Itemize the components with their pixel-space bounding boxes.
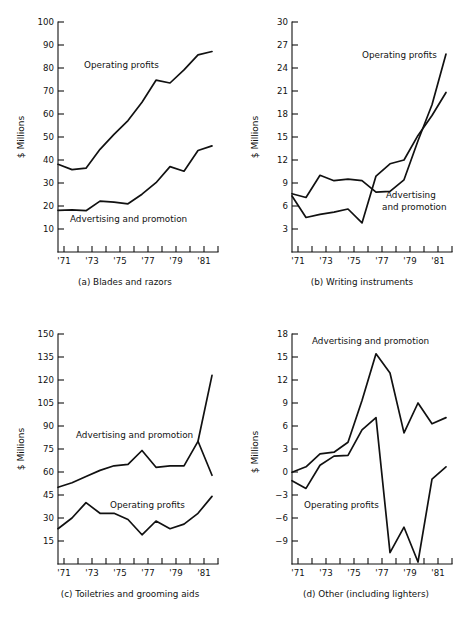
y-tick-label: 21 <box>277 86 288 96</box>
y-tick-label: 30 <box>277 17 288 27</box>
y-tick-label: 3 <box>283 444 288 454</box>
x-tick-label: '73 <box>85 568 98 578</box>
y-tick-label: 75 <box>43 444 54 454</box>
y-tick-label: 6 <box>283 201 288 211</box>
chart-panel-c: 150 135 120 105 90 75 60 45 30 15 $ Mill… <box>0 312 234 624</box>
y-tick-label: 3 <box>283 224 288 234</box>
y-axis-d: 18 15 12 9 6 3 0 −3 −6 −9 $ Millions <box>250 329 298 564</box>
series-label-advertising-and-promotion: Advertising and promotion <box>70 214 187 224</box>
series-line-operating-profits <box>292 54 446 197</box>
x-tick-label: '77 <box>375 256 388 266</box>
y-axis-title: $ Millions <box>16 116 26 159</box>
y-tick-label: 27 <box>277 40 288 50</box>
series-line-advertising-and-promotion <box>58 441 212 487</box>
y-tick-label: 150 <box>38 329 54 339</box>
chart-svg-d: 18 15 12 9 6 3 0 −3 −6 −9 $ Millions <box>234 312 468 624</box>
y-axis-c: 150 135 120 105 90 75 60 45 30 15 $ Mill… <box>16 329 64 564</box>
y-tick-label: 45 <box>43 490 54 500</box>
y-tick-label: 50 <box>43 132 54 142</box>
series-label-operating-profits: Operating profits <box>84 60 159 70</box>
y-tick-label: 135 <box>38 352 54 362</box>
series-line-operating-profits <box>292 418 446 562</box>
y-tick-label: 10 <box>43 224 54 234</box>
y-tick-label: 30 <box>43 513 54 523</box>
x-tick-label: '73 <box>319 568 332 578</box>
y-ticks-d <box>292 334 298 541</box>
x-tick-label: '75 <box>113 568 126 578</box>
series-label-operating-profits: Operating profits <box>362 50 437 60</box>
y-tick-label: 6 <box>283 421 288 431</box>
panel-caption-b: (b) Writing instruments <box>311 277 414 287</box>
y-tick-label: 60 <box>43 109 54 119</box>
x-tick-label: '77 <box>141 568 154 578</box>
x-tick-label: '75 <box>347 256 360 266</box>
y-axis-title: $ Millions <box>250 116 260 159</box>
x-axis-a: '71 '73 '75 '77 '79 '81 <box>57 246 218 266</box>
series-line-advertising-and-promotion-2 <box>198 375 212 441</box>
x-axis-d: '71 '73 '75 '77 '79 '81 <box>291 558 452 578</box>
y-tick-label: 9 <box>283 398 288 408</box>
y-tick-label: −6 <box>275 513 288 523</box>
y-tick-label: 18 <box>277 329 288 339</box>
x-axis-b: '71 '73 '75 '77 '79 '81 <box>291 246 452 266</box>
y-axis-title: $ Millions <box>16 428 26 471</box>
x-tick-label: '81 <box>197 256 210 266</box>
panel-caption-d: (d) Other (including lighters) <box>303 589 429 599</box>
y-tick-label: 15 <box>43 536 54 546</box>
chart-panel-d: 18 15 12 9 6 3 0 −3 −6 −9 $ Millions <box>234 312 468 624</box>
series-label-and-promotion: and promotion <box>382 202 447 212</box>
y-tick-label: 12 <box>277 155 288 165</box>
series-line-advertising-and-promotion <box>292 354 446 472</box>
x-tick-label: '79 <box>403 256 416 266</box>
x-tick-label: '71 <box>57 568 70 578</box>
y-tick-label: 70 <box>43 86 54 96</box>
x-tick-label: '81 <box>431 568 444 578</box>
y-tick-label: 90 <box>43 421 54 431</box>
y-tick-label: 20 <box>43 201 54 211</box>
y-tick-label: 100 <box>38 17 54 27</box>
y-tick-label: 40 <box>43 155 54 165</box>
y-tick-label: −9 <box>275 536 288 546</box>
series-label-advertising-and-promotion: Advertising and promotion <box>312 336 429 346</box>
x-tick-label: '79 <box>403 568 416 578</box>
x-tick-label: '77 <box>141 256 154 266</box>
panel-caption-c: (c) Toiletries and grooming aids <box>61 589 200 599</box>
x-tick-label: '71 <box>57 256 70 266</box>
y-ticks-c <box>58 334 64 541</box>
series-label-advertising-and-promotion: Advertising and promotion <box>76 430 193 440</box>
y-tick-label: 30 <box>43 178 54 188</box>
y-tick-label: 9 <box>283 178 288 188</box>
y-tick-label: 80 <box>43 63 54 73</box>
y-tick-label: 24 <box>277 63 288 73</box>
chart-panel-b: 30 27 24 21 18 15 12 9 6 3 $ Millions <box>234 0 468 312</box>
y-tick-label: 15 <box>277 352 288 362</box>
x-tick-label: '79 <box>169 568 182 578</box>
chart-panel-a: 100 90 80 70 60 50 40 30 20 10 $ Million… <box>0 0 234 312</box>
y-tick-label: 12 <box>277 375 288 385</box>
y-tick-label: 15 <box>277 132 288 142</box>
x-tick-label: '77 <box>375 568 388 578</box>
y-axis-a: 100 90 80 70 60 50 40 30 20 10 $ Million… <box>16 17 64 252</box>
y-tick-label: 60 <box>43 467 54 477</box>
y-tick-label: −3 <box>275 490 288 500</box>
x-axis-c: '71 '73 '75 '77 '79 '81 <box>57 558 218 578</box>
y-tick-label: 120 <box>38 375 54 385</box>
chart-svg-c: 150 135 120 105 90 75 60 45 30 15 $ Mill… <box>0 312 234 624</box>
x-tick-label: '81 <box>431 256 444 266</box>
chart-svg-a: 100 90 80 70 60 50 40 30 20 10 $ Million… <box>0 0 234 312</box>
series-label-advertising: Advertising <box>386 190 436 200</box>
figure-multi-panel-line-charts: 100 90 80 70 60 50 40 30 20 10 $ Million… <box>0 0 468 624</box>
chart-svg-b: 30 27 24 21 18 15 12 9 6 3 $ Millions <box>234 0 468 312</box>
x-tick-label: '75 <box>113 256 126 266</box>
y-axis-title: $ Millions <box>250 431 260 474</box>
x-tick-label: '73 <box>85 256 98 266</box>
x-tick-label: '73 <box>319 256 332 266</box>
x-tick-label: '81 <box>197 568 210 578</box>
series-label-operating-profits: Operating profits <box>110 500 185 510</box>
y-tick-label: 105 <box>38 398 54 408</box>
y-tick-label: 90 <box>43 40 54 50</box>
x-tick-label: '79 <box>169 256 182 266</box>
y-tick-label: 18 <box>277 109 288 119</box>
y-tick-label: 0 <box>283 467 288 477</box>
x-tick-label: '71 <box>291 568 304 578</box>
